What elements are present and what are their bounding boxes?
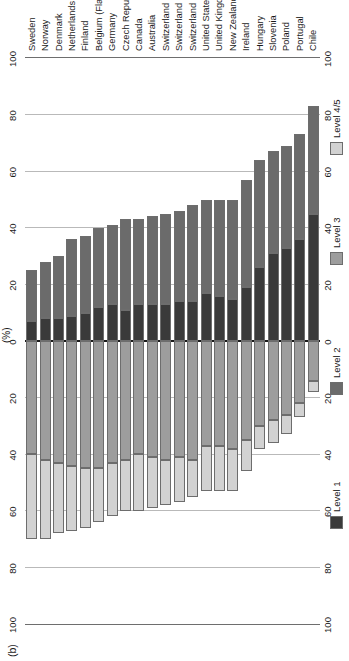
bar-segment bbox=[107, 225, 118, 304]
x-tick-label: 20 bbox=[7, 280, 18, 291]
bar-segment bbox=[147, 341, 158, 457]
bar-segment bbox=[26, 454, 37, 539]
category-label: Chile bbox=[308, 30, 318, 51]
category-label: Germany bbox=[107, 13, 117, 51]
bar-segment bbox=[201, 341, 212, 446]
x-tick-label: 80 bbox=[7, 110, 18, 121]
bar-segment bbox=[53, 318, 64, 341]
bar-segment bbox=[66, 316, 77, 341]
legend-label: Level 3 bbox=[331, 217, 342, 248]
category-label: Netherlands bbox=[67, 1, 77, 51]
bar-segment bbox=[187, 301, 198, 341]
x-tick-label: 100 bbox=[7, 617, 18, 633]
bar-segment bbox=[147, 304, 158, 341]
bar-segment bbox=[254, 160, 265, 268]
bar-segment bbox=[66, 466, 77, 531]
bar-segment bbox=[281, 415, 292, 435]
bar-segment bbox=[160, 341, 171, 460]
legend-item[interactable]: Level 2 bbox=[330, 347, 343, 395]
bar-segment bbox=[107, 304, 118, 341]
legend-item[interactable]: Level 4/5 bbox=[330, 99, 343, 155]
bar-segment bbox=[80, 236, 91, 312]
bar-segment bbox=[93, 307, 104, 341]
panel-label: (b) bbox=[6, 644, 18, 657]
category-label: Portugal bbox=[295, 16, 305, 51]
bar-segment bbox=[40, 318, 51, 341]
bar-segment bbox=[66, 239, 77, 315]
bar-segment bbox=[133, 454, 144, 511]
bar-segment bbox=[241, 287, 252, 341]
bar-segment bbox=[254, 267, 265, 341]
bar-segment bbox=[308, 381, 319, 392]
bar-segment bbox=[187, 460, 198, 497]
bar-segment bbox=[93, 228, 104, 307]
bar-segment bbox=[227, 341, 238, 449]
bar-segment bbox=[133, 304, 144, 341]
bar-segment bbox=[53, 256, 64, 318]
bar-segment bbox=[254, 426, 265, 449]
bar-segment bbox=[241, 341, 252, 440]
bar-segment bbox=[26, 341, 37, 454]
bar-segment bbox=[214, 341, 225, 446]
bar-segment bbox=[227, 200, 238, 299]
legend-swatch bbox=[330, 252, 343, 265]
bar-segment bbox=[308, 106, 319, 214]
bar-segment bbox=[93, 468, 104, 522]
bar-segment bbox=[53, 463, 64, 534]
legend-item[interactable]: Level 1 bbox=[330, 481, 343, 529]
bar-segment bbox=[294, 239, 305, 341]
category-label: Denmark bbox=[54, 13, 64, 51]
plot-area bbox=[25, 57, 320, 625]
bar-segment bbox=[80, 341, 91, 468]
category-label: Switzerland (French) bbox=[161, 0, 171, 51]
bar-segment bbox=[53, 341, 64, 463]
bar-segment bbox=[187, 341, 198, 460]
bar-segment bbox=[147, 217, 158, 305]
category-label: United States bbox=[201, 0, 211, 51]
category-label: Ireland bbox=[241, 23, 251, 51]
bar-segment bbox=[281, 341, 292, 415]
bar-segment bbox=[174, 301, 185, 341]
bar-segment bbox=[40, 262, 51, 319]
bar-segment bbox=[160, 460, 171, 505]
bar-segment bbox=[281, 248, 292, 341]
bar-segment bbox=[160, 214, 171, 305]
category-label: Switzerland (Italian) bbox=[188, 0, 198, 51]
figure-stage: (b) (%) 10080604020020406080100 10080604… bbox=[0, 0, 349, 661]
bar-segment bbox=[241, 440, 252, 471]
legend-item[interactable]: Level 3 bbox=[330, 217, 343, 265]
bar-segment bbox=[268, 341, 279, 420]
bar-segment bbox=[40, 341, 51, 460]
bar-segment bbox=[201, 446, 212, 491]
category-label: Czech Republic bbox=[121, 0, 131, 51]
bar-segment bbox=[254, 341, 265, 426]
category-label: New Zealand bbox=[228, 0, 238, 51]
x-tick-label: 60 bbox=[7, 167, 18, 178]
bar-segment bbox=[268, 151, 279, 253]
x-tick-label: 80 bbox=[7, 563, 18, 574]
category-label: Slovenia bbox=[268, 15, 278, 51]
bar-segment bbox=[133, 219, 144, 304]
bar-segment bbox=[26, 321, 37, 341]
bar-segment bbox=[93, 341, 104, 468]
x-tick-label: 20 bbox=[7, 393, 18, 404]
bar-segment bbox=[294, 134, 305, 239]
bar-segment bbox=[214, 296, 225, 341]
bar-segment bbox=[294, 341, 305, 403]
bar-segment bbox=[201, 200, 212, 293]
legend-label: Level 4/5 bbox=[331, 99, 342, 138]
x-axis-ticks-top: 10080604020020406080100 bbox=[7, 59, 21, 625]
bar-segment bbox=[80, 468, 91, 527]
bar-segment bbox=[174, 211, 185, 302]
bar-segment bbox=[120, 219, 131, 310]
x-tick-label: 60 bbox=[7, 507, 18, 518]
gridline bbox=[25, 567, 320, 568]
x-tick-label: 0 bbox=[7, 339, 18, 344]
category-label: Switzerland (German) bbox=[174, 0, 184, 51]
bar-segment bbox=[227, 299, 238, 341]
legend-swatch bbox=[330, 382, 343, 395]
bar-segment bbox=[241, 180, 252, 288]
legend-swatch bbox=[330, 516, 343, 529]
x-tick-label: 40 bbox=[7, 224, 18, 235]
rotated-figure: (b) (%) 10080604020020406080100 10080604… bbox=[0, 0, 349, 661]
